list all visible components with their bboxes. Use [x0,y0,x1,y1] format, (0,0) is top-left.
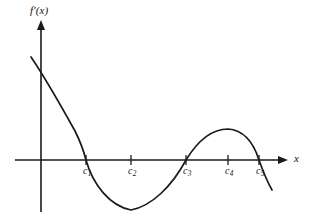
x-axis-label: x [294,153,299,164]
tick-c3-label: c3 [183,166,191,176]
tick-c2-subscript: 2 [133,170,137,178]
tick-c4-label: c4 [225,166,233,176]
tick-c1-subscript: 1 [88,170,92,178]
tick-c2-label: c2 [128,166,136,176]
tick-c5-subscript: 5 [261,170,265,178]
tick-c1-label: c1 [83,166,91,176]
tick-c5-label: c5 [256,166,264,176]
tick-c4-subscript: 4 [230,170,234,178]
y-axis-label: f′(x) [30,5,48,16]
y-axis-arrowhead-icon [37,20,45,30]
tick-c3-subscript: 3 [188,170,192,178]
x-axis-arrowhead-icon [278,156,288,164]
graph-canvas [0,0,310,222]
derivative-graph-figure: f′(x) x c1c2c3c4c5 [0,0,310,222]
derivative-curve-path [31,57,272,210]
